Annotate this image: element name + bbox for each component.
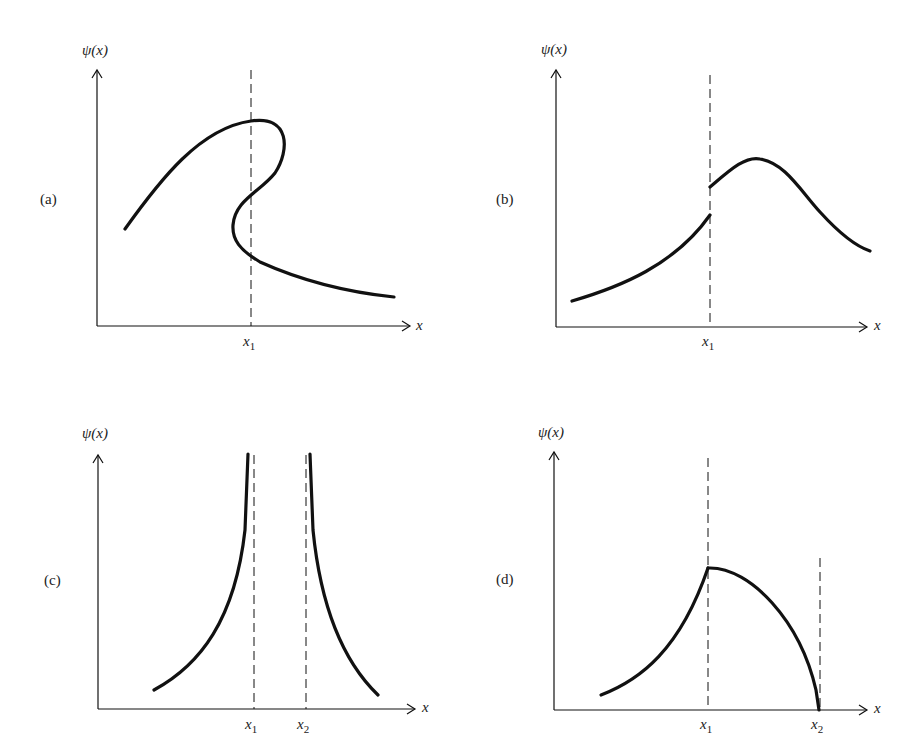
panel-label-b: (b) xyxy=(496,191,514,208)
wavefunction-figure xyxy=(0,0,921,756)
tick-x2-d: x2 xyxy=(811,716,823,735)
tick-x1-a: x1 xyxy=(243,333,255,352)
wavefunction-curve-right xyxy=(710,159,870,251)
y-axis-label-b: ψ(x) xyxy=(541,41,567,58)
x-axis-label-d: x xyxy=(874,700,881,717)
wavefunction-curve xyxy=(125,120,394,297)
tick-x1-b: x1 xyxy=(702,333,714,352)
y-axis-label-d: ψ(x) xyxy=(538,424,564,441)
tick-x1-c: x1 xyxy=(245,716,257,735)
wavefunction-curve-right xyxy=(310,454,378,695)
panel-label-c: (c) xyxy=(44,572,61,589)
y-axis-label-a: ψ(x) xyxy=(82,42,108,59)
wavefunction-curve-right xyxy=(708,568,819,710)
panel-c xyxy=(98,454,415,709)
panel-a xyxy=(97,70,410,326)
wavefunction-curve-left xyxy=(572,215,710,301)
tick-x2-c: x2 xyxy=(297,716,309,735)
wavefunction-curve-left xyxy=(154,454,248,690)
panel-d xyxy=(554,452,867,710)
panel-label-a: (a) xyxy=(40,191,57,208)
x-axis-label-a: x xyxy=(416,317,423,334)
wavefunction-curve-left xyxy=(601,568,708,695)
x-axis-label-c: x xyxy=(422,699,429,716)
y-axis-label-c: ψ(x) xyxy=(82,425,108,442)
panel-b xyxy=(556,70,870,327)
panel-label-d: (d) xyxy=(496,571,514,588)
x-axis-label-b: x xyxy=(874,317,881,334)
tick-x1-d: x1 xyxy=(700,716,712,735)
